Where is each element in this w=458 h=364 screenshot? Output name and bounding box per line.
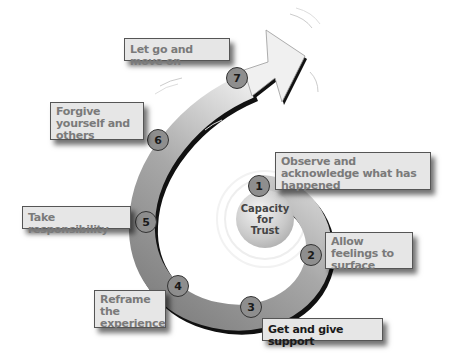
- step-2-marker: 2: [300, 244, 322, 266]
- center-line-2: for: [241, 214, 290, 225]
- step-1-label: Observe and acknowledge what has happene…: [275, 152, 431, 190]
- step-5-label: Take responsibility: [22, 206, 131, 229]
- step-5-marker: 5: [135, 211, 157, 233]
- step-4-marker: 4: [167, 275, 189, 297]
- step-7-label: Let go and move on: [124, 38, 230, 61]
- step-3-marker: 3: [240, 296, 262, 318]
- step-6-marker: 6: [147, 129, 169, 151]
- step-1-marker: 1: [248, 175, 270, 197]
- trust-spiral-diagram: Capacity for Trust 1 2 3 4 5 6 7 Observe…: [0, 0, 458, 364]
- capacity-for-trust-core: Capacity for Trust: [236, 190, 294, 248]
- center-line-3: Trust: [241, 225, 290, 236]
- step-7-marker: 7: [226, 67, 248, 89]
- center-line-1: Capacity: [241, 203, 290, 214]
- step-4-label: Reframe the experience: [94, 290, 166, 328]
- step-3-label: Get and give support: [262, 318, 383, 341]
- step-2-label: Allow feelings to surface: [325, 232, 413, 269]
- step-6-label: Forgive yourself and others: [50, 102, 144, 140]
